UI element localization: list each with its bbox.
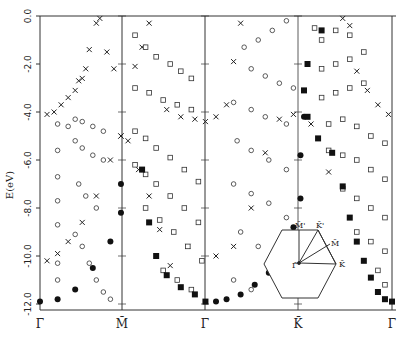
y-tick-label: -10.0 xyxy=(23,244,33,268)
data-point-filled-square xyxy=(354,239,360,245)
data-point-filled-circle xyxy=(213,299,219,305)
data-point-open-circle xyxy=(55,122,60,127)
inset-label-m-prime: M̄' xyxy=(295,221,305,230)
data-point-open-circle xyxy=(267,158,272,163)
data-point-open-square xyxy=(196,179,201,184)
data-point-open-square xyxy=(189,107,194,112)
data-point-open-square xyxy=(189,76,194,81)
data-point-cross xyxy=(94,21,99,26)
data-point-filled-square xyxy=(347,215,353,221)
data-point-open-circle xyxy=(101,158,106,163)
data-point-open-circle xyxy=(87,261,92,266)
data-point-cross xyxy=(83,66,88,71)
data-point-open-square xyxy=(143,172,148,177)
data-point-cross xyxy=(192,117,197,122)
data-point-cross xyxy=(309,122,314,127)
data-point-open-circle xyxy=(267,201,272,206)
data-point-open-square xyxy=(355,158,360,163)
data-point-open-circle xyxy=(94,278,99,283)
data-point-open-square xyxy=(383,283,388,288)
data-point-open-circle xyxy=(80,119,85,124)
data-point-filled-square xyxy=(301,87,307,93)
data-point-filled-square xyxy=(389,299,395,305)
data-point-filled-square xyxy=(139,167,145,173)
data-point-cross xyxy=(326,170,331,175)
data-point-cross xyxy=(277,117,282,122)
data-point-cross xyxy=(354,69,359,74)
data-point-open-circle xyxy=(249,287,254,292)
data-point-open-circle xyxy=(83,194,88,199)
data-point-cross xyxy=(126,138,131,143)
data-point-open-square xyxy=(147,91,152,96)
y-tick-label: 0.0 xyxy=(23,9,33,24)
data-point-open-circle xyxy=(80,244,85,249)
data-point-open-square xyxy=(333,28,338,33)
data-point-open-square xyxy=(200,259,205,264)
data-point-open-square xyxy=(369,206,374,211)
data-point-cross xyxy=(45,258,50,263)
data-point-cross xyxy=(231,59,236,64)
data-point-open-circle xyxy=(284,122,289,127)
data-point-open-circle xyxy=(91,153,96,158)
x-label-gamma-right: Γ̄ xyxy=(388,317,396,331)
data-point-filled-square xyxy=(305,61,311,67)
data-point-cross xyxy=(87,47,92,52)
data-point-open-square xyxy=(340,153,345,158)
data-point-open-circle xyxy=(66,124,71,129)
data-point-filled-circle xyxy=(37,299,43,305)
data-point-open-circle xyxy=(55,199,60,204)
data-point-open-square xyxy=(133,129,138,134)
y-tick-label: -4.0 xyxy=(23,103,33,121)
data-point-cross xyxy=(231,244,236,249)
data-point-filled-square xyxy=(164,272,170,278)
data-point-open-circle xyxy=(231,182,236,187)
inset-label-k-prime: K̄' xyxy=(316,221,324,230)
y-tick-label: -8.0 xyxy=(23,199,33,217)
data-point-open-circle xyxy=(108,297,113,302)
data-point-filled-circle xyxy=(297,195,303,201)
data-point-open-circle xyxy=(284,167,289,172)
data-point-open-square xyxy=(347,57,352,62)
data-point-cross xyxy=(386,112,391,117)
data-point-open-square xyxy=(355,230,360,235)
data-point-open-square xyxy=(186,244,191,249)
data-point-open-circle xyxy=(73,232,78,237)
data-point-open-square xyxy=(171,230,176,235)
data-point-cross xyxy=(168,263,173,268)
data-point-open-circle xyxy=(249,107,254,112)
data-point-filled-circle xyxy=(252,282,258,288)
data-point-filled-square xyxy=(192,291,198,297)
data-point-open-square xyxy=(312,26,317,31)
data-point-cross xyxy=(178,114,183,119)
data-point-cross xyxy=(365,88,370,93)
data-point-filled-circle xyxy=(224,296,230,302)
x-label-gamma-mid: Γ̄ xyxy=(201,317,209,331)
data-point-open-circle xyxy=(249,148,254,153)
x-label-k: K̄ xyxy=(294,316,304,331)
data-point-open-circle xyxy=(55,261,60,266)
data-point-cross xyxy=(94,194,99,199)
data-point-open-square xyxy=(369,167,374,172)
data-point-open-circle xyxy=(242,45,247,50)
data-point-open-circle xyxy=(291,86,296,91)
data-point-open-circle xyxy=(55,223,60,228)
data-point-cross xyxy=(147,194,152,199)
x-label-m: M̄ xyxy=(116,316,128,331)
data-point-cross xyxy=(52,110,57,115)
data-point-cross xyxy=(263,150,268,155)
data-point-filled-square xyxy=(368,275,374,281)
data-point-cross xyxy=(73,88,78,93)
data-point-filled-square xyxy=(329,150,335,156)
data-point-open-circle xyxy=(73,139,78,144)
data-point-cross xyxy=(66,239,71,244)
brillouin-zone-inset xyxy=(264,230,336,298)
data-point-cross xyxy=(157,227,162,232)
data-point-open-square xyxy=(161,268,166,273)
data-point-filled-circle xyxy=(297,152,303,158)
data-point-open-circle xyxy=(101,290,106,295)
data-point-filled-circle xyxy=(72,287,78,293)
data-point-open-square xyxy=(319,95,324,100)
data-point-open-circle xyxy=(231,100,236,105)
data-point-open-square xyxy=(347,86,352,91)
data-point-cross xyxy=(108,158,113,163)
